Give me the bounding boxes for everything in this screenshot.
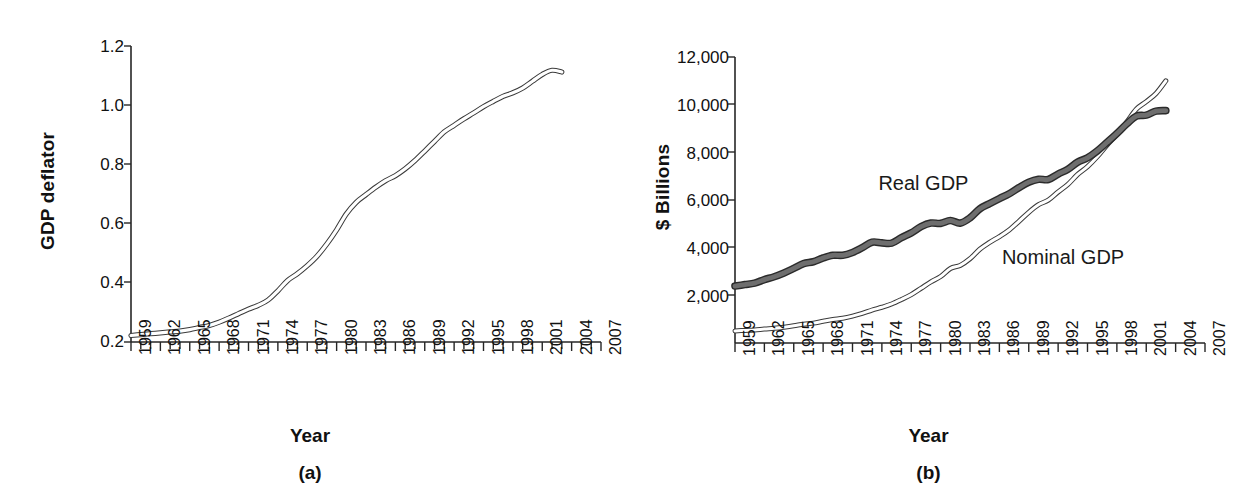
panel-b-xtick-label: 1971 xyxy=(859,320,877,356)
panel-b-y-ticks xyxy=(728,57,735,295)
panel-b-xtick-label: 1998 xyxy=(1123,320,1141,356)
panel-a-xtick-label: 1962 xyxy=(166,319,184,355)
panel-b-xtick-label: 1974 xyxy=(888,320,906,356)
panel-a-xtick-label: 1998 xyxy=(519,319,537,355)
panel-b-xtick-label: 2007 xyxy=(1211,320,1229,356)
panel-b-xtick-label: 1983 xyxy=(976,320,994,356)
panel-a-xtick-label: 1989 xyxy=(431,319,449,355)
panel-a: GDP deflator 1.2 1.0 0.8 0.6 0.4 0.2 xyxy=(0,0,620,501)
panel-a-xtick-label: 1995 xyxy=(490,319,508,355)
panel-b-xtick-label: 1980 xyxy=(947,320,965,356)
panel-a-xtick-label: 2004 xyxy=(578,319,596,355)
panel-b-xtick-label: 2004 xyxy=(1182,320,1200,356)
panel-b-series-nominal-gdp xyxy=(735,81,1166,331)
panel-a-series-gdp-deflator xyxy=(131,70,562,335)
panel-b: $ Billions 12,000 10,000 8,000 6,000 4,0… xyxy=(620,0,1237,501)
panel-b-xtick-label: 1977 xyxy=(917,320,935,356)
panel-b-xtick-label: 1986 xyxy=(1005,320,1023,356)
panel-a-xtick-label: 2001 xyxy=(548,319,566,355)
panel-a-xtick-label: 1974 xyxy=(284,319,302,355)
panel-a-xtick-label: 1992 xyxy=(460,319,478,355)
panel-b-xtick-label: 1962 xyxy=(770,320,788,356)
panel-b-xtick-label: 1959 xyxy=(741,320,759,356)
panel-a-caption: (a) xyxy=(0,462,620,484)
panel-b-annotation-real-gdp: Real GDP xyxy=(878,172,968,195)
panel-a-xtick-label: 1968 xyxy=(225,319,243,355)
panel-b-xtick-label: 1965 xyxy=(800,320,818,356)
panel-b-xtick-label: 1992 xyxy=(1064,320,1082,356)
panel-b-xtick-label: 2001 xyxy=(1152,320,1170,356)
panel-a-xtick-label: 1971 xyxy=(255,319,273,355)
panel-a-xtick-label: 1986 xyxy=(401,319,419,355)
panel-b-caption: (b) xyxy=(620,462,1237,484)
panel-b-xtick-label: 1968 xyxy=(829,320,847,356)
panel-a-xtick-label: 1977 xyxy=(313,319,331,355)
panel-a-xtick-label: 1965 xyxy=(196,319,214,355)
panel-a-xtick-label: 1959 xyxy=(137,319,155,355)
panel-a-x-axis-title: Year xyxy=(0,425,620,447)
panel-a-xtick-label: 1980 xyxy=(343,319,361,355)
panel-b-x-axis-title: Year xyxy=(620,425,1237,447)
figure-root: GDP deflator 1.2 1.0 0.8 0.6 0.4 0.2 xyxy=(0,0,1237,501)
panel-b-xtick-label: 1995 xyxy=(1094,320,1112,356)
panel-b-annotation-nominal-gdp: Nominal GDP xyxy=(1002,246,1124,269)
panel-a-xtick-label: 1983 xyxy=(372,319,390,355)
panel-b-xtick-label: 1989 xyxy=(1035,320,1053,356)
panel-a-y-ticks xyxy=(124,46,131,342)
